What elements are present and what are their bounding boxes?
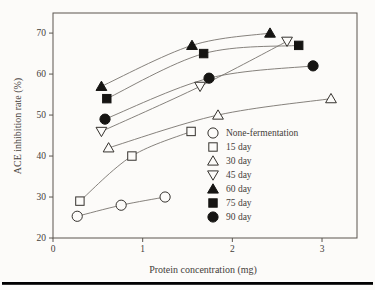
x-axis-title: Protein concentration (mg) [149,264,257,276]
ace-inhibition-chart: 2030405060700123None-fermentation15 day3… [0,0,375,290]
marker-triangle-up-solid [265,28,276,37]
y-tick-label: 30 [37,192,47,202]
marker-square-solid [295,41,303,49]
y-tick-label: 70 [37,28,47,38]
legend-label-15-day: 15 day [226,142,252,152]
legend-label-45-day: 45 day [226,170,252,180]
marker-triangle-down-open [282,37,293,46]
marker-circle-open [208,128,218,138]
series-line-45-day [101,41,287,131]
marker-circle-solid [208,212,218,222]
marker-circle-solid [308,61,318,71]
marker-square-open [76,197,84,205]
legend-label-75-day: 75 day [226,198,252,208]
x-tick-label: 0 [51,244,56,254]
marker-triangle-down-open [208,171,219,180]
marker-triangle-up-open [326,93,337,102]
marker-square-open [209,143,217,151]
marker-triangle-up-solid [187,40,198,49]
chart-plot-area: 2030405060700123None-fermentation15 day3… [37,13,358,254]
legend-label-90-day: 90 day [226,212,252,222]
y-tick-label: 60 [37,69,47,79]
x-tick-label: 1 [140,244,145,254]
y-tick-label: 20 [37,233,47,243]
series-line-15-day [80,131,191,201]
series-line-30-day [109,99,331,148]
marker-triangle-up-solid [96,81,107,90]
figure-page: 2030405060700123None-fermentation15 day3… [0,0,375,290]
marker-square-solid [103,94,111,102]
marker-square-open [187,127,195,135]
marker-circle-open [116,200,126,210]
plot-border [53,13,357,238]
marker-square-solid [199,49,207,57]
y-tick-label: 40 [37,151,47,161]
legend-label-60-day: 60 day [226,184,252,194]
y-axis-title: ACE inhibition rate (%) [12,78,24,174]
marker-square-solid [209,199,217,207]
marker-square-open [128,152,136,160]
marker-triangle-up-open [208,156,219,165]
marker-triangle-up-solid [208,184,219,193]
x-tick-label: 2 [230,244,235,254]
page-divider-rule [2,282,373,285]
marker-triangle-down-open [195,82,206,91]
marker-circle-solid [204,73,214,83]
marker-circle-open [72,211,82,221]
legend-label-30-day: 30 day [226,156,252,166]
legend-label-none-fermentation: None-fermentation [226,128,299,138]
marker-circle-open [160,192,170,202]
marker-circle-solid [100,114,110,124]
marker-triangle-down-open [96,127,107,136]
marker-triangle-up-open [103,143,114,152]
x-tick-label: 3 [320,244,325,254]
y-tick-label: 50 [37,110,47,120]
